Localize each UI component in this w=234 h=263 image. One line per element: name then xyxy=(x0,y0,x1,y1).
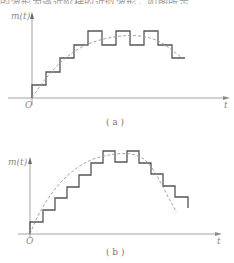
panel-b-caption: ( b ) xyxy=(106,247,125,257)
panel-b-staircase xyxy=(30,151,188,234)
panel-a-caption: ( a ) xyxy=(106,117,124,127)
y-axis-arrow-icon xyxy=(28,157,32,164)
panel-b-curve xyxy=(30,154,177,234)
panel-b-origin-label: O xyxy=(26,236,33,246)
panel-a-axes xyxy=(8,12,230,105)
panel-a-x-label: t xyxy=(224,100,228,110)
figure-canvas xyxy=(0,0,234,263)
panel-a-origin-label: O xyxy=(25,100,32,110)
panel-a-staircase xyxy=(32,31,185,98)
y-axis-arrow-icon xyxy=(30,12,34,19)
panel-b-y-label: m(t) xyxy=(8,157,27,167)
panel-b-x-label: t xyxy=(217,236,221,246)
panel-a-y-label: m(t) xyxy=(11,11,30,21)
